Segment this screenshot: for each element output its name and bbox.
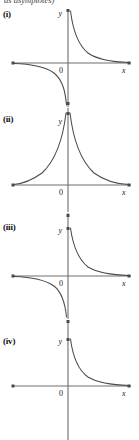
plot-iii: y x 0 [0,213,139,320]
plot-iv: y x 0 [0,320,139,440]
origin-label-iv: 0 [59,389,63,398]
curve-branch-quadrant-i-iv [71,339,130,386]
y-axis-label-ii: y [58,117,63,126]
figure-sheet: as asymptotes) (i) y x 0 (ii) [0,0,139,440]
y-axis-top-marker-i [67,9,70,12]
x-axis-left-marker-iv [12,385,15,388]
curve-branch-quadrant-i [71,11,130,62]
panel-iv: (iv) y x 0 [0,320,139,440]
x-axis-label-iii: x [121,279,126,288]
origin-label-iii: 0 [59,279,63,288]
origin-label-ii: 0 [59,188,63,197]
y-axis-label-iii: y [58,226,63,235]
y-axis-top-marker-iv [67,320,70,323]
y-axis-label-iv: y [58,337,63,346]
y-axis-upper-marker-iv [67,338,70,341]
plot-ii: y x 0 [0,108,139,213]
panel-iii: (iii) y x 0 [0,213,139,320]
panel-ii: (ii) y x 0 [0,108,139,213]
panel-i: (i) y x 0 [0,5,139,108]
x-axis-label-ii: x [121,188,126,197]
y-axis-top-marker-ii [67,112,70,115]
curve-branch-quadrant-i-iii [71,228,130,276]
x-axis-label-iv: x [121,389,126,398]
y-axis-label-i: y [58,9,63,18]
origin-label-i: 0 [59,66,63,75]
y-axis-top-marker-iii [67,214,70,217]
x-axis-label-i: x [121,66,126,75]
y-axis-upper-marker-iii [67,227,70,230]
curve-branch-right-ii [70,113,129,185]
plot-i: y x 0 [0,5,139,108]
